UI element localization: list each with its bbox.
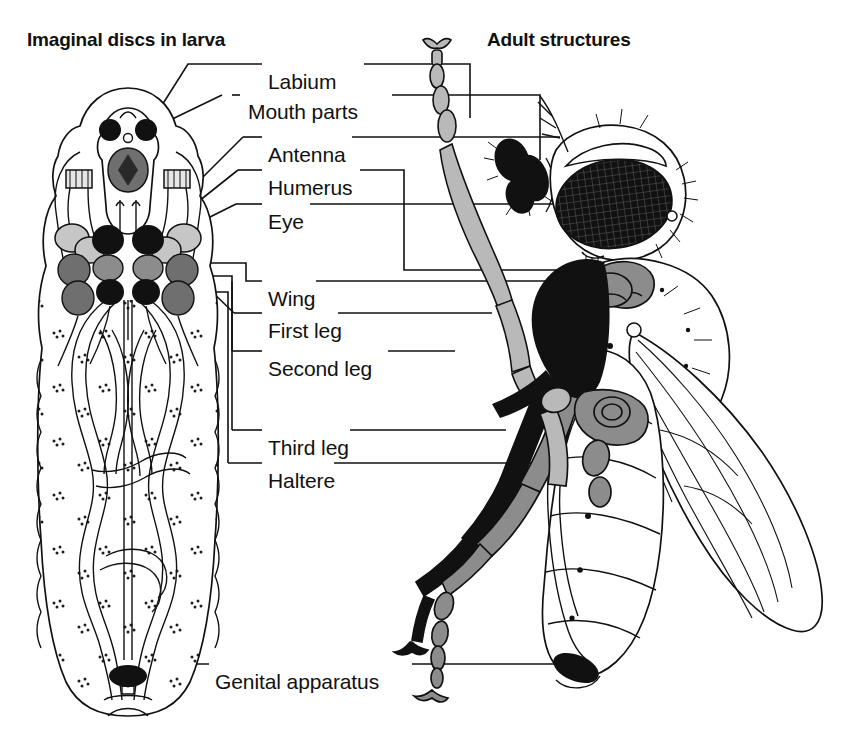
adult-head bbox=[538, 96, 698, 266]
disc-secondleg-left bbox=[96, 279, 124, 305]
disc-genital bbox=[109, 665, 147, 687]
diagram-artwork bbox=[0, 0, 866, 747]
disc-humerus-right bbox=[133, 255, 163, 281]
label-third-leg: Third leg bbox=[268, 436, 349, 460]
disc-thirdleg-left bbox=[62, 281, 94, 315]
label-eye: Eye bbox=[268, 210, 304, 234]
disc-eye-right bbox=[132, 225, 164, 255]
label-second-leg: Second leg bbox=[268, 357, 372, 381]
label-antenna: Antenna bbox=[268, 143, 346, 167]
label-wing: Wing bbox=[268, 287, 315, 311]
label-labium: Labium bbox=[268, 70, 336, 94]
label-first-leg: First leg bbox=[268, 319, 342, 343]
disc-mouthparts-right bbox=[135, 119, 157, 141]
disc-mouthparts-left bbox=[99, 119, 121, 141]
figure-canvas: Imaginal discs in larva Adult structures bbox=[0, 0, 866, 747]
disc-humerus-left bbox=[93, 255, 123, 281]
disc-thirdleg-right bbox=[162, 281, 194, 315]
larva-sensory-specks bbox=[36, 300, 222, 700]
adult-fly-illustration bbox=[394, 39, 822, 702]
disc-secondleg-right bbox=[132, 279, 160, 305]
adult-first-leg bbox=[423, 39, 556, 420]
label-humerus: Humerus bbox=[268, 176, 353, 200]
disc-eye-left bbox=[92, 225, 124, 255]
label-genital-apparatus: Genital apparatus bbox=[215, 670, 379, 694]
adult-second-leg bbox=[394, 380, 560, 655]
label-haltere: Haltere bbox=[268, 469, 335, 493]
larva-illustration bbox=[36, 88, 222, 716]
label-mouth-parts: Mouth parts bbox=[248, 100, 358, 124]
adult-mouth-parts bbox=[484, 134, 555, 218]
